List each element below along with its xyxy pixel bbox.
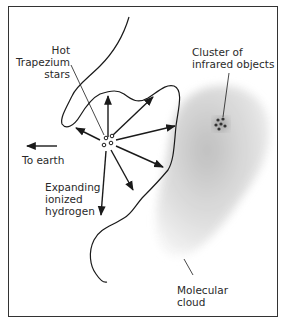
label-hot-trapezium-stars: Hot Trapezium stars bbox=[12, 44, 70, 80]
label-line: Expanding bbox=[45, 181, 101, 193]
label-line: cloud bbox=[177, 296, 228, 308]
label-line: hydrogen bbox=[45, 205, 101, 217]
label-line: Hot bbox=[12, 44, 70, 56]
label-line: Cluster of bbox=[192, 46, 274, 58]
molecular-cloud bbox=[156, 85, 269, 256]
label-molecular-cloud: Molecular cloud bbox=[177, 284, 228, 308]
label-to-earth: To earth bbox=[22, 154, 64, 166]
label-line: infrared objects bbox=[192, 58, 274, 70]
label-line: Trapezium bbox=[12, 56, 70, 68]
label-ionized-hydrogen: Expanding ionized hydrogen bbox=[45, 181, 101, 217]
label-line: To earth bbox=[22, 154, 64, 166]
label-cluster-infrared: Cluster of infrared objects bbox=[192, 46, 274, 70]
label-line: Molecular bbox=[177, 284, 228, 296]
label-line: stars bbox=[12, 68, 70, 80]
label-line: ionized bbox=[45, 193, 101, 205]
